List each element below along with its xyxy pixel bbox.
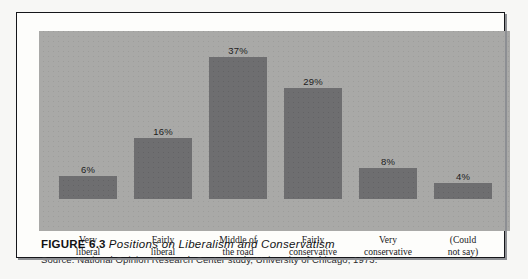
chart-plot-area: 6% Very liberal 16% Fairly liberal 37% M… (39, 31, 510, 231)
bar-value-label: 8% (381, 157, 395, 167)
caption-title-line: FIGURE 6.3 Positions on Liberalism and C… (41, 237, 480, 251)
figure-container: 6% Very liberal 16% Fairly liberal 37% M… (0, 0, 528, 279)
bar-group-fairly-conservative: 29% Fairly conservative (284, 31, 342, 231)
bar-rect (359, 168, 417, 199)
bar-rect (59, 176, 117, 199)
bar-series: 6% Very liberal 16% Fairly liberal 37% M… (39, 31, 510, 231)
bar-rect (134, 138, 192, 199)
bar-group-very-conservative: 8% Very conservative (359, 31, 417, 231)
bar-group-could-not-say: 4% (Could not say) (434, 31, 492, 231)
figure-caption: FIGURE 6.3 Positions on Liberalism and C… (41, 237, 480, 265)
figure-source: Source: National Opinion Research Center… (41, 254, 480, 265)
bar-value-label: 37% (228, 46, 248, 56)
bar-group-very-liberal: 6% Very liberal (59, 31, 117, 231)
bar-value-label: 16% (153, 127, 173, 137)
bar-group-fairly-liberal: 16% Fairly liberal (134, 31, 192, 231)
bar-value-label: 6% (81, 165, 95, 175)
bar-rect (434, 183, 492, 199)
bar-value-label: 29% (303, 77, 323, 87)
figure-frame: 6% Very liberal 16% Fairly liberal 37% M… (16, 12, 505, 258)
figure-number: FIGURE 6.3 (41, 238, 106, 250)
bar-rect (284, 88, 342, 199)
bar-value-label: 4% (456, 172, 470, 182)
figure-title: Positions on Liberalism and Conservatism (109, 238, 335, 250)
bar-group-middle-of-the-road: 37% Middle of the road (209, 31, 267, 231)
bar-rect (209, 57, 267, 199)
